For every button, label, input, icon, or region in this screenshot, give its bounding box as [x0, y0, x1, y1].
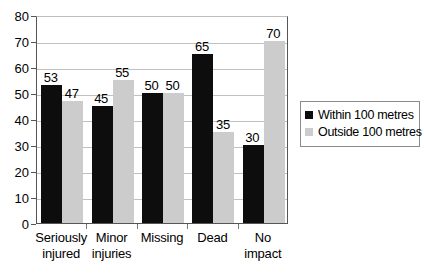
legend-label-within: Within 100 metres — [318, 109, 414, 122]
x-tick-mark — [137, 224, 138, 229]
bar-chart-figure: 01020304050607080 53474555505065353070 S… — [0, 0, 424, 273]
x-axis-category-line: No — [220, 230, 306, 246]
legend-label-outside: Outside 100 metres — [318, 126, 422, 139]
x-axis-category-line: injuries — [69, 246, 155, 262]
x-tick-mark — [86, 224, 87, 229]
legend-swatch-within — [305, 111, 313, 119]
x-axis-category-label: Noimpact — [220, 230, 306, 262]
x-tick-mark — [238, 224, 239, 229]
legend-item-outside: Outside 100 metres — [305, 124, 415, 140]
x-tick-mark — [187, 224, 188, 229]
legend-item-within: Within 100 metres — [305, 107, 415, 123]
chart-legend: Within 100 metres Outside 100 metres — [300, 101, 420, 147]
x-axis-category-line: impact — [220, 246, 306, 262]
legend-swatch-outside — [305, 128, 313, 136]
